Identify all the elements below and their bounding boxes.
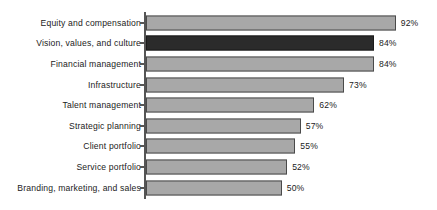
bar-row: Infrastructure73%: [0, 74, 437, 95]
bar-row: Branding, marketing, and sales50%: [0, 177, 437, 198]
bar-row: Financial management84%: [0, 54, 437, 75]
plot-area: Equity and compensation92%Vision, values…: [0, 0, 437, 210]
value-label: 92%: [401, 18, 419, 28]
value-label: 57%: [306, 121, 324, 131]
axis-tick: [140, 166, 144, 168]
bar-fill: [146, 159, 287, 174]
bar: [146, 56, 374, 71]
axis-tick: [140, 42, 144, 44]
axis-tick: [140, 145, 144, 147]
category-label: Client portfolio: [83, 141, 141, 151]
axis-tick: [140, 187, 144, 189]
bar: [146, 139, 295, 154]
bar-fill: [146, 139, 295, 154]
bar-row: Client portfolio55%: [0, 136, 437, 157]
bar-row: Vision, values, and culture84%: [0, 33, 437, 54]
value-label: 84%: [379, 38, 397, 48]
category-label: Strategic planning: [69, 121, 141, 131]
bar-row: Talent management62%: [0, 95, 437, 116]
bar-fill: [146, 77, 344, 92]
bar: [146, 98, 314, 113]
axis-tick: [140, 104, 144, 106]
bar-fill: [146, 56, 374, 71]
bar: [146, 36, 374, 51]
bar-fill: [146, 180, 282, 195]
horizontal-bar-chart: Equity and compensation92%Vision, values…: [0, 0, 437, 210]
category-label: Service portfolio: [76, 162, 141, 172]
value-label: 50%: [287, 183, 305, 193]
value-label: 73%: [349, 80, 367, 90]
bar: [146, 180, 282, 195]
bar-row: Strategic planning57%: [0, 116, 437, 137]
category-label: Financial management: [51, 59, 141, 69]
bar: [146, 15, 396, 30]
category-label: Talent management: [63, 100, 141, 110]
bar: [146, 118, 301, 133]
axis-tick: [140, 84, 144, 86]
bar: [146, 77, 344, 92]
value-label: 62%: [319, 100, 337, 110]
bar-fill: [146, 15, 396, 30]
axis-tick: [140, 125, 144, 127]
bar: [146, 159, 287, 174]
bar-fill: [146, 98, 314, 113]
category-label: Infrastructure: [88, 80, 141, 90]
bar-row: Equity and compensation92%: [0, 13, 437, 34]
value-label: 84%: [379, 59, 397, 69]
axis-tick: [140, 22, 144, 24]
value-label: 52%: [292, 162, 310, 172]
category-label: Branding, marketing, and sales: [17, 183, 141, 193]
bar-fill-highlighted: [146, 36, 374, 51]
value-label: 55%: [300, 141, 318, 151]
category-label: Vision, values, and culture: [36, 38, 141, 48]
bar-row: Service portfolio52%: [0, 157, 437, 178]
category-label: Equity and compensation: [41, 18, 141, 28]
bar-fill: [146, 118, 301, 133]
axis-tick: [140, 63, 144, 65]
